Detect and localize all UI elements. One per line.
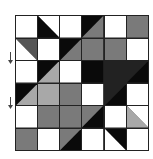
grid-cell-r3-c2[interactable] — [60, 84, 81, 106]
grid-cell-r4-c2[interactable] — [60, 106, 81, 128]
grid-cell-r2-c5[interactable] — [127, 61, 148, 83]
grid-cell-r3-c3[interactable] — [82, 84, 103, 106]
grid-cell-r3-c4[interactable] — [105, 84, 126, 106]
grid-cell-r2-c3[interactable] — [82, 61, 103, 83]
grid-cell-r5-c0[interactable] — [16, 129, 37, 151]
grid-cell-r4-c5[interactable] — [127, 106, 148, 128]
grid-cell-r1-c4[interactable] — [105, 39, 126, 61]
grid-cell-r5-c5[interactable] — [127, 129, 148, 151]
grid-cell-r2-c1[interactable] — [38, 61, 59, 83]
grid-cell-r0-c0[interactable] — [16, 16, 37, 38]
grid-cell-r1-c5[interactable] — [127, 39, 148, 61]
down-arrow-2-icon — [8, 97, 13, 109]
grid-cell-r2-c2[interactable] — [60, 61, 81, 83]
grid-cell-r0-c3[interactable] — [82, 16, 103, 38]
grid-cell-r4-c3[interactable] — [82, 106, 103, 128]
grid-cell-r2-c0[interactable] — [16, 61, 37, 83]
grid-cell-r3-c0[interactable] — [16, 84, 37, 106]
grid-cell-r4-c1[interactable] — [38, 106, 59, 128]
grid-cell-r0-c1[interactable] — [38, 16, 59, 38]
grid-cell-r5-c2[interactable] — [60, 129, 81, 151]
grid-cell-r0-c2[interactable] — [60, 16, 81, 38]
grid-cell-r5-c3[interactable] — [82, 129, 103, 151]
quilt-grid — [15, 15, 149, 151]
grid-cell-r1-c2[interactable] — [60, 39, 81, 61]
down-arrow-1-icon — [8, 52, 13, 64]
grid-cell-r4-c4[interactable] — [105, 106, 126, 128]
grid-cell-r5-c1[interactable] — [38, 129, 59, 151]
grid-cell-r0-c5[interactable] — [127, 16, 148, 38]
grid-cell-r2-c4[interactable] — [105, 61, 126, 83]
grid-cell-r1-c1[interactable] — [38, 39, 59, 61]
grid-cell-r1-c3[interactable] — [82, 39, 103, 61]
grid-cell-r5-c4[interactable] — [105, 129, 126, 151]
grid-cell-r4-c0[interactable] — [16, 106, 37, 128]
grid-cell-r0-c4[interactable] — [105, 16, 126, 38]
grid-cell-r3-c1[interactable] — [38, 84, 59, 106]
grid-cell-r1-c0[interactable] — [16, 39, 37, 61]
grid-cell-r3-c5[interactable] — [127, 84, 148, 106]
